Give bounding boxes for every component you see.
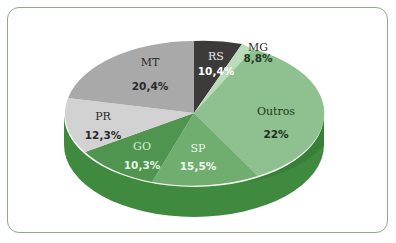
label-rs-value: 10,4% (198, 65, 235, 77)
label-pr-name: PR (95, 110, 111, 123)
label-pr-value: 12,3% (85, 129, 122, 141)
label-mt-name: MT (141, 56, 160, 69)
pie-chart-3d: RS 10,4% MG 8,8% Outros 22% SP 15,5% GO … (0, 0, 396, 243)
label-sp-value: 15,5% (180, 160, 217, 172)
label-go-name: GO (133, 140, 151, 153)
label-mt-value: 20,4% (132, 80, 169, 92)
label-sp-name: SP (191, 142, 207, 155)
label-outros-value: 22% (263, 128, 289, 140)
label-outros-name: Outros (257, 105, 295, 118)
label-mg-value: 8,8% (243, 52, 273, 64)
label-rs-name: RS (208, 50, 224, 63)
label-go-value: 10,3% (124, 159, 161, 171)
